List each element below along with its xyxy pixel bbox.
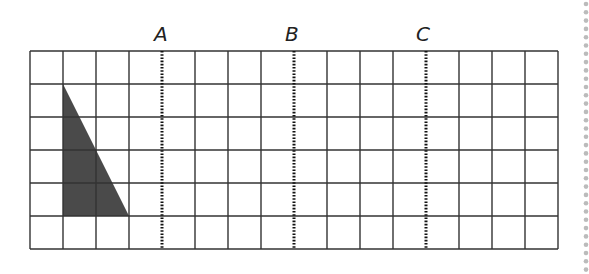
margin-dot: [584, 251, 589, 256]
margin-dot: [584, 267, 589, 272]
diagram-canvas: A B C: [0, 0, 589, 274]
margin-dot: [584, 18, 589, 23]
margin-dot: [584, 52, 589, 57]
margin-dot: [584, 2, 589, 7]
margin-dot: [584, 242, 589, 247]
line-label-c: C: [416, 24, 430, 44]
margin-dot: [584, 184, 589, 189]
margin-dot: [584, 85, 589, 90]
margin-dot: [584, 118, 589, 123]
margin-dot: [584, 209, 589, 214]
margin-dot: [584, 176, 589, 181]
line-label-a: A: [154, 24, 168, 44]
margin-dot: [584, 218, 589, 223]
margin-dot: [584, 35, 589, 40]
margin-dot: [584, 151, 589, 156]
line-label-b: B: [285, 24, 299, 44]
margin-dot: [584, 135, 589, 140]
margin-dot: [584, 93, 589, 98]
margin-dot: [584, 10, 589, 15]
margin-dot: [584, 168, 589, 173]
margin-dot: [584, 159, 589, 164]
margin-dot: [584, 60, 589, 65]
margin-dot: [584, 143, 589, 148]
margin-dot: [584, 68, 589, 73]
margin-dot: [584, 101, 589, 106]
margin-dot: [584, 76, 589, 81]
margin-dot: [584, 110, 589, 115]
margin-dot: [584, 201, 589, 206]
margin-dot: [584, 193, 589, 198]
margin-dot: [584, 27, 589, 32]
margin-dot: [584, 259, 589, 264]
margin-dot: [584, 234, 589, 239]
margin-dot: [584, 126, 589, 131]
margin-dot: [584, 226, 589, 231]
margin-dot: [584, 43, 589, 48]
